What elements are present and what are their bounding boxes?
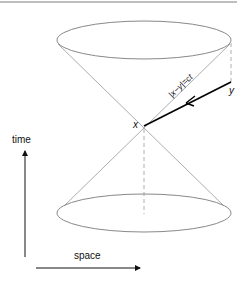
space-axis-label: space	[74, 250, 101, 261]
future-cone-ellipse	[57, 21, 231, 59]
light-cone-diagram: x y |x−y|=ct time space	[0, 0, 246, 282]
cone-edge-left	[58, 44, 224, 206]
point-x-label: x	[132, 119, 139, 130]
cone-edge-label: |x−y|=ct	[166, 71, 195, 99]
point-y-label: y	[228, 85, 235, 96]
time-axis-label: time	[12, 134, 31, 145]
